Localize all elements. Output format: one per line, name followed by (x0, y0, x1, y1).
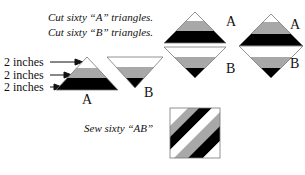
label-b-single: B (144, 85, 153, 101)
label-a-stack2: A (290, 17, 300, 33)
label-a-stack1: A (226, 14, 236, 30)
label-b-stack1: B (226, 61, 235, 77)
ab-square-block (170, 108, 220, 158)
label-a-single: A (82, 92, 92, 108)
instruction-cut-b: Cut sixty “B” triangles. (48, 26, 153, 38)
label-b-stack2: B (290, 56, 299, 72)
instruction-cut-a: Cut sixty “A” triangles. (48, 11, 153, 23)
measurement-label-black: 2 inches (4, 80, 44, 95)
stack-separated (160, 10, 230, 80)
instruction-sew-ab: Sew sixty “AB” (84, 122, 153, 134)
